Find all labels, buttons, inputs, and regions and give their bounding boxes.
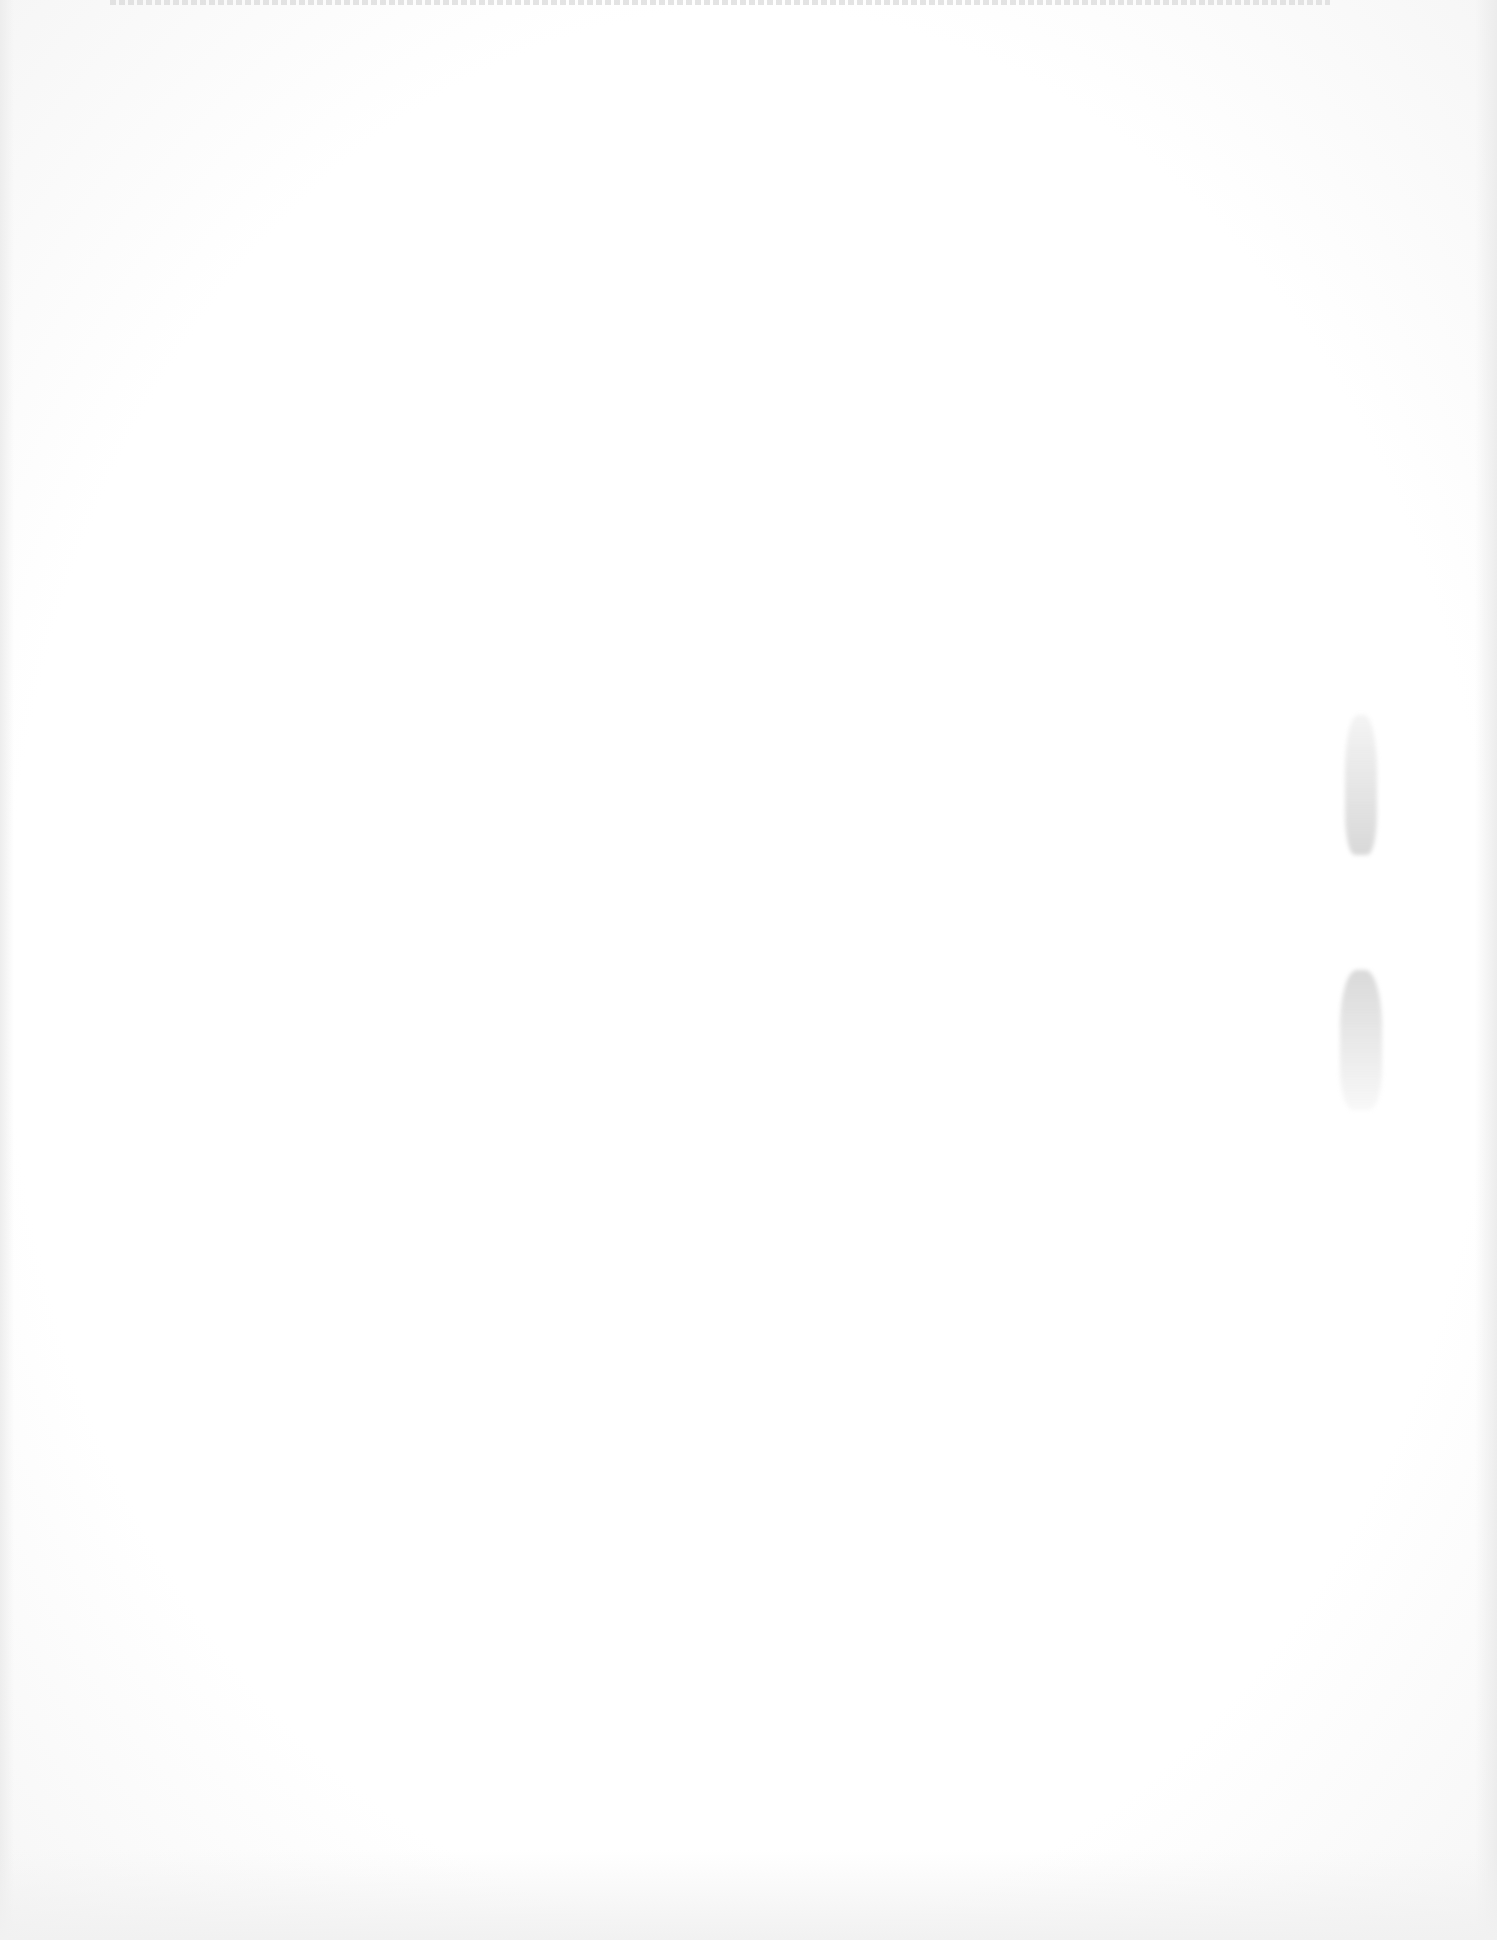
toner-smudge — [1340, 970, 1382, 1110]
scan-edge-shadow-right — [1475, 0, 1497, 1940]
toner-smudge — [1345, 715, 1377, 855]
blank-document-page — [0, 0, 1497, 1940]
scan-edge-shadow-left — [0, 0, 14, 1940]
cutoff-text-fragment — [110, 0, 1330, 5]
scan-edge-shadow-bottom — [0, 1850, 1497, 1940]
